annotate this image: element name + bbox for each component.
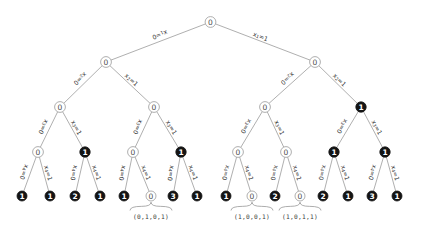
svg-text:x4=1: x4=1 bbox=[340, 164, 352, 181]
leaf-node: 3 bbox=[168, 191, 178, 201]
svg-text:x3=0: x3=0 bbox=[335, 118, 350, 135]
braces-group bbox=[130, 202, 321, 210]
svg-text:x1=0: x1=0 bbox=[151, 29, 168, 42]
edge-label: x3=1 bbox=[70, 119, 84, 136]
node-label: 1 bbox=[223, 192, 228, 201]
edge-label: x3=0 bbox=[239, 118, 254, 135]
node-label: 1 bbox=[382, 148, 387, 157]
svg-text:x3=0: x3=0 bbox=[239, 118, 254, 135]
tuple-label: (1,0,0,1) bbox=[234, 213, 270, 220]
leaf-node: 0 bbox=[295, 191, 305, 201]
node-label: 3 bbox=[170, 192, 175, 201]
node-label: 0 bbox=[284, 148, 289, 157]
edge-label: x3=0 bbox=[335, 118, 350, 135]
node-label: 1 bbox=[394, 192, 399, 201]
edge-label: x4=1 bbox=[43, 164, 54, 181]
tree-node: 0 bbox=[281, 147, 292, 158]
tree-node: 1 bbox=[356, 102, 366, 112]
edge-label: x1=0 bbox=[151, 29, 168, 42]
node-label: 0 bbox=[36, 148, 41, 157]
tree-node: 1 bbox=[380, 147, 390, 157]
tree-node: 0 bbox=[128, 147, 139, 158]
tuple-brace bbox=[130, 202, 172, 210]
svg-text:x4=1: x4=1 bbox=[43, 164, 54, 181]
leaf-node: 2 bbox=[270, 191, 280, 201]
tree-node: 1 bbox=[329, 147, 339, 157]
tree-edge bbox=[64, 66, 102, 103]
edge-label: x3=0 bbox=[132, 119, 146, 136]
edge-label: x3=1 bbox=[370, 119, 384, 136]
node-label: 1 bbox=[358, 103, 363, 112]
node-label: 1 bbox=[47, 192, 52, 201]
tree-node: 0 bbox=[33, 147, 44, 158]
svg-text:x4=0: x4=0 bbox=[19, 164, 31, 181]
leaf-node: 1 bbox=[95, 191, 105, 201]
leaf-node: 2 bbox=[70, 191, 80, 201]
leaf-node: 1 bbox=[17, 191, 27, 201]
leaf-node: 2 bbox=[318, 191, 328, 201]
node-label: 1 bbox=[178, 148, 183, 157]
tree-edge bbox=[111, 24, 205, 60]
svg-text:x4=1: x4=1 bbox=[390, 164, 401, 181]
svg-text:x4=1: x4=1 bbox=[244, 164, 256, 181]
node-label: 0 bbox=[236, 148, 241, 157]
node-label: 0 bbox=[208, 18, 213, 27]
node-label: 3 bbox=[369, 192, 374, 201]
node-label: 0 bbox=[250, 192, 255, 201]
edge-label: x4=1 bbox=[292, 164, 304, 181]
node-label: 0 bbox=[104, 58, 109, 67]
svg-text:x2=1: x2=1 bbox=[332, 71, 349, 87]
svg-text:x2=1: x2=1 bbox=[123, 71, 140, 87]
edge-label: x3=0 bbox=[37, 118, 51, 135]
edge-label: x4=1 bbox=[244, 164, 256, 181]
leaf-node: 1 bbox=[192, 191, 202, 201]
edge-label: x4=1 bbox=[187, 164, 199, 181]
node-label: 0 bbox=[58, 103, 63, 112]
edge-label: x3=1 bbox=[273, 119, 287, 136]
node-label: 0 bbox=[131, 148, 136, 157]
edge-label: x4=1 bbox=[140, 164, 153, 181]
tuple-brace bbox=[279, 202, 321, 210]
leaf-node: 1 bbox=[221, 191, 231, 201]
svg-text:x3=1: x3=1 bbox=[164, 118, 179, 135]
svg-text:x4=1: x4=1 bbox=[140, 164, 153, 181]
tree-node: 0 bbox=[101, 57, 112, 68]
tree-node: 1 bbox=[176, 147, 186, 157]
decision-tree-figure: x1=0x1=1x2=0x2=1x2=0x2=1x3=0x3=1x3=0x3=1… bbox=[0, 0, 421, 233]
svg-text:x4=1: x4=1 bbox=[292, 164, 304, 181]
edge-label: x4=0 bbox=[166, 165, 176, 182]
edge-label: x2=0 bbox=[72, 71, 89, 87]
tree-edge bbox=[269, 66, 311, 104]
node-label: 1 bbox=[121, 192, 126, 201]
svg-text:x4=0: x4=0 bbox=[118, 165, 129, 182]
edge-label: x2=1 bbox=[123, 71, 140, 87]
svg-text:x4=0: x4=0 bbox=[69, 164, 80, 181]
node-label: 2 bbox=[320, 192, 325, 201]
leaf-node: 0 bbox=[146, 191, 156, 201]
edge-label: x4=0 bbox=[19, 164, 31, 181]
edge-label: x2=1 bbox=[332, 71, 349, 87]
svg-text:x4=0: x4=0 bbox=[166, 165, 176, 182]
leaf-node: 1 bbox=[343, 191, 353, 201]
tree-node: 0 bbox=[149, 102, 160, 113]
svg-text:x4=1: x4=1 bbox=[91, 164, 103, 181]
node-label: 0 bbox=[152, 103, 157, 112]
svg-text:x1=1: x1=1 bbox=[252, 30, 269, 43]
edge-label: x4=1 bbox=[390, 164, 401, 181]
edge-label: x1=1 bbox=[252, 30, 269, 43]
edge-label: x3=1 bbox=[164, 118, 179, 135]
svg-text:x2=0: x2=0 bbox=[72, 71, 89, 87]
node-label: 1 bbox=[194, 192, 199, 201]
tree-node: 0 bbox=[55, 102, 66, 113]
leaf-node: 1 bbox=[45, 191, 55, 201]
tree-edge bbox=[216, 24, 310, 60]
svg-text:x3=0: x3=0 bbox=[37, 118, 51, 135]
svg-text:x3=1: x3=1 bbox=[70, 119, 84, 136]
leaf-node: 1 bbox=[392, 191, 402, 201]
tree-node: 0 bbox=[310, 57, 321, 68]
edge-label: x4=0 bbox=[118, 165, 129, 182]
node-label: 1 bbox=[97, 192, 102, 201]
leaf-node: 0 bbox=[247, 191, 257, 201]
tuple-brace bbox=[231, 202, 273, 210]
node-label: 2 bbox=[72, 192, 77, 201]
